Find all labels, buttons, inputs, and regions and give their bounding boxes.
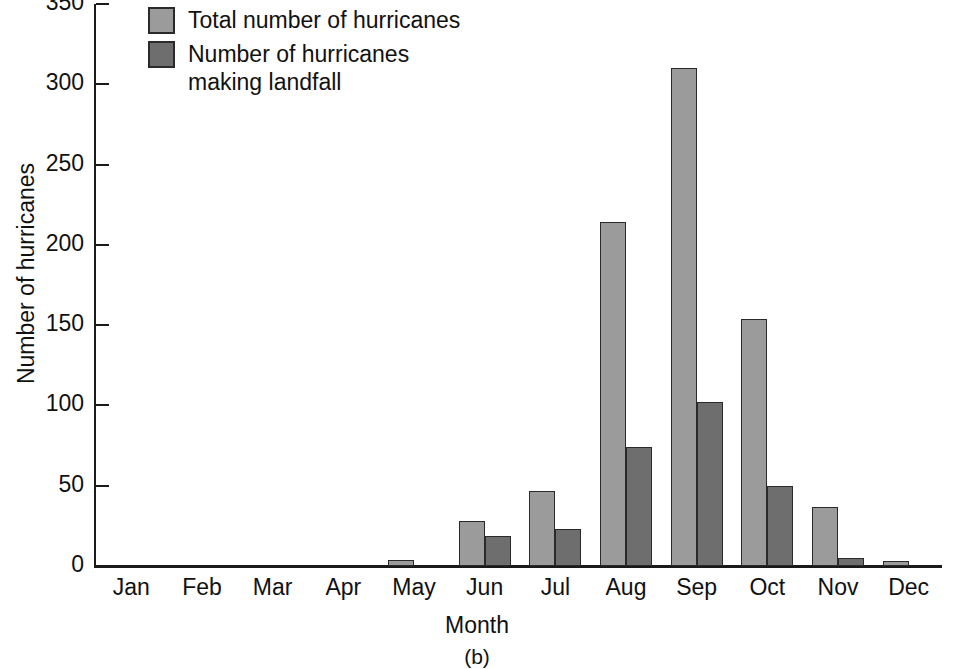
bar-aug-total [600, 222, 626, 566]
x-axis-label-jun: Jun [466, 574, 503, 601]
x-axis-label-may: May [392, 574, 435, 601]
x-axis-label-apr: Apr [325, 574, 361, 601]
bar-sep-total [671, 68, 697, 566]
x-axis-label-oct: Oct [749, 574, 785, 601]
bar-sep-landfall [697, 402, 723, 566]
bar-oct-landfall [767, 486, 793, 566]
x-axis-label-aug: Aug [606, 574, 647, 601]
y-axis-tick-label: 200 [0, 230, 84, 257]
legend-swatch-total-icon [148, 7, 175, 34]
bar-jul-landfall [555, 529, 581, 566]
x-axis-label-sep: Sep [676, 574, 717, 601]
y-axis-tick-label: 300 [0, 69, 84, 96]
y-axis-tick-label: 150 [0, 310, 84, 337]
panel-caption: (b) [0, 645, 954, 669]
hurricane-bar-chart-figure: Number of hurricanes 0501001502002503003… [0, 0, 954, 669]
x-axis-label-feb: Feb [182, 574, 222, 601]
legend-swatch-landfall-icon [148, 41, 175, 68]
y-axis-tick-label: 0 [0, 551, 84, 578]
legend-item-total: Total number of hurricanes [148, 6, 548, 34]
legend-item-landfall: Number of hurricanes making landfall [148, 40, 548, 96]
bar-dec-total [883, 561, 909, 566]
chart-legend: Total number of hurricanes Number of hur… [148, 6, 548, 102]
bar-jul-total [529, 491, 555, 566]
y-axis-tick-label: 350 [0, 0, 84, 16]
bar-may-total [388, 560, 414, 566]
bar-nov-landfall [838, 558, 864, 566]
bar-nov-total [812, 507, 838, 566]
y-axis-tick-label: 100 [0, 390, 84, 417]
legend-label-landfall: Number of hurricanes making landfall [188, 40, 409, 96]
x-axis-title: Month [0, 612, 954, 639]
bar-aug-landfall [626, 447, 652, 566]
x-axis-label-jan: Jan [113, 574, 150, 601]
legend-label-total: Total number of hurricanes [188, 6, 460, 34]
x-axis-label-jul: Jul [541, 574, 570, 601]
bar-jun-total [459, 521, 485, 566]
y-axis-tick-label: 50 [0, 471, 84, 498]
x-axis-label-nov: Nov [818, 574, 859, 601]
x-axis-label-dec: Dec [888, 574, 929, 601]
bar-oct-total [741, 319, 767, 566]
x-axis-label-mar: Mar [253, 574, 293, 601]
bar-jun-landfall [485, 536, 511, 567]
y-axis-tick-label: 250 [0, 150, 84, 177]
